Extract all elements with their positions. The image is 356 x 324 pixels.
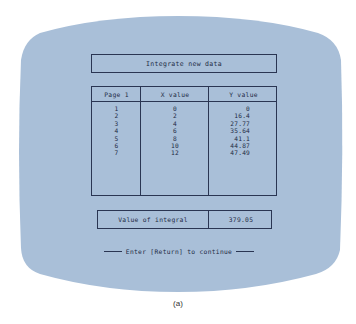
title-box: Integrate new data (91, 54, 277, 73)
y-value: 0 (246, 105, 250, 112)
integral-box: Value of integral 379.05 (97, 210, 272, 229)
header-page: Page 1 (92, 87, 141, 102)
data-table: Page 1 X value Y value 1 2 3 4 5 6 7 0 2… (91, 86, 277, 196)
dash-right (236, 251, 254, 252)
x-value: 4 (173, 120, 177, 127)
y-value: 35.64 (230, 127, 250, 134)
x-column: 0 2 4 6 8 10 12 (141, 105, 209, 157)
row-index: 1 (115, 105, 119, 112)
x-value: 10 (171, 142, 179, 149)
header-x-value: X value (141, 87, 209, 102)
figure-caption: (a) (160, 299, 196, 308)
dash-left (104, 251, 122, 252)
screen-title: Integrate new data (146, 60, 222, 68)
continue-prompt[interactable]: Enter [Return] to continue (88, 245, 270, 257)
index-column: 1 2 3 4 5 6 7 (92, 105, 141, 157)
y-value: 16.4 (234, 112, 250, 119)
y-value: 44.87 (230, 142, 250, 149)
row-index: 2 (115, 112, 119, 119)
x-value: 6 (173, 127, 177, 134)
x-value: 8 (173, 135, 177, 142)
row-index: 7 (115, 149, 119, 156)
y-value: 27.77 (230, 120, 250, 127)
row-index: 4 (115, 127, 119, 134)
integral-label: Value of integral (98, 211, 209, 228)
integral-value: 379.05 (209, 211, 273, 228)
continue-prompt-text: Enter [Return] to continue (126, 248, 232, 255)
y-column: 0 16.4 27.77 35.64 41.1 44.87 47.49 (209, 105, 278, 157)
y-value: 47.49 (230, 149, 250, 156)
row-index: 5 (115, 135, 119, 142)
row-index: 6 (115, 142, 119, 149)
header-y-value: Y value (209, 87, 278, 102)
x-value: 12 (171, 149, 179, 156)
y-value: 41.1 (234, 135, 250, 142)
row-index: 3 (115, 120, 119, 127)
x-value: 0 (173, 105, 177, 112)
x-value: 2 (173, 112, 177, 119)
crt-screen: Integrate new data Page 1 X value Y valu… (0, 0, 356, 324)
